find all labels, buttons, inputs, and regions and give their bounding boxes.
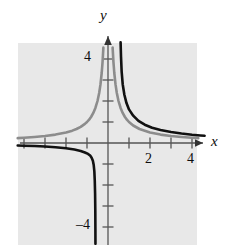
x-axis-arrowhead [195, 139, 203, 147]
y-tick-label-minus-4: –4 [76, 218, 90, 232]
black-curve-right-branch [121, 42, 205, 136]
plot-canvas [0, 0, 227, 245]
gray-curve-right-branch [113, 48, 199, 139]
axes-group [20, 36, 203, 245]
x-tick-label-2: 2 [145, 152, 152, 166]
y-tick-label-4: 4 [84, 50, 91, 64]
y-axis-arrowhead [104, 36, 112, 45]
y-axis-label: y [100, 8, 107, 23]
graph-figure: y x 4 –4 2 4 [0, 0, 227, 245]
x-axis-label: x [211, 134, 218, 149]
x-tick-label-4: 4 [187, 152, 194, 166]
